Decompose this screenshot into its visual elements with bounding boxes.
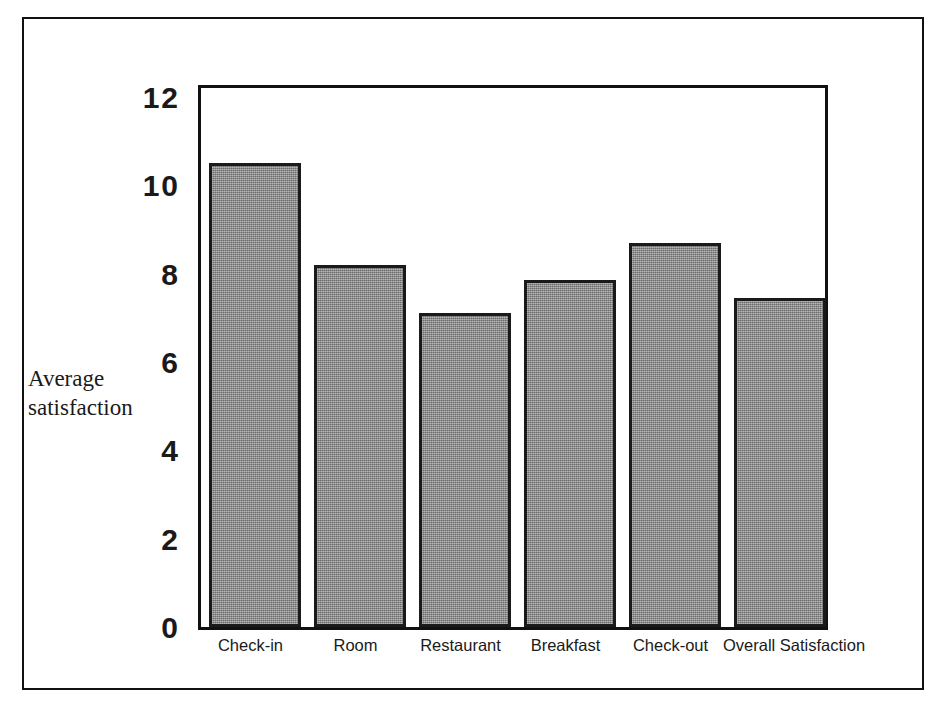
y-axis-title: Average satisfaction <box>28 364 198 423</box>
x-axis-label-overall-satisfaction: Overall Satisfaction <box>723 636 828 654</box>
bars-container <box>201 88 825 627</box>
y-axis-title-line-2: satisfaction <box>28 393 198 422</box>
x-axis-label-check-in: Check-in <box>198 636 303 654</box>
y-axis-tick-labels: 024681012 <box>70 0 180 707</box>
x-axis-label-check-out: Check-out <box>618 636 723 654</box>
x-axis-label-restaurant: Restaurant <box>408 636 513 654</box>
bar-breakfast <box>524 280 616 627</box>
y-axis-tick-12: 12 <box>90 83 180 113</box>
bar-overall-satisfaction <box>734 298 826 627</box>
x-axis-category-labels: Check-inRoomRestaurantBreakfastCheck-out… <box>198 636 898 666</box>
y-axis-tick-2: 2 <box>90 525 180 555</box>
y-axis-tick-8: 8 <box>90 260 180 290</box>
plot-area-frame <box>198 85 828 630</box>
x-axis-label-room: Room <box>303 636 408 654</box>
y-axis-tick-4: 4 <box>90 436 180 466</box>
y-axis-tick-0: 0 <box>90 613 180 643</box>
bar-room <box>314 265 406 627</box>
y-axis-title-line-1: Average <box>28 364 198 393</box>
x-axis-label-breakfast: Breakfast <box>513 636 618 654</box>
bar-restaurant <box>419 313 511 627</box>
y-axis-tick-10: 10 <box>90 171 180 201</box>
bar-check-in <box>209 163 301 627</box>
figure-canvas: 024681012 Average satisfaction Check-inR… <box>0 0 947 707</box>
bar-check-out <box>629 243 721 627</box>
